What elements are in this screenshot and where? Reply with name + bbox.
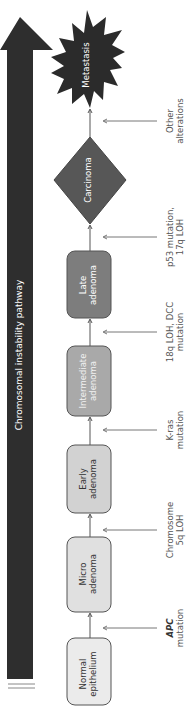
stage-label-metastasis: Metastasis	[82, 35, 94, 95]
alteration-label-line2: mutation	[176, 593, 186, 663]
stage-label-intermediate: Intermediate adenoma	[79, 346, 101, 416]
alteration-label-kras: K-ras mutation	[166, 395, 188, 465]
pathway-label: Chromosomal instability pathway	[14, 279, 26, 431]
stage-label-line2: adenoma	[89, 449, 99, 509]
alteration-label-18q: 18q LOH, DCC mutation	[166, 292, 188, 372]
stage-label-line1: Carcinoma	[84, 150, 94, 210]
stage-label-line2: adenoma	[89, 346, 99, 416]
alteration-label-line2: 17q LOH	[176, 197, 186, 277]
alteration-label-apc: APC mutation	[166, 593, 188, 663]
alteration-label-line2: alterations	[176, 86, 186, 156]
stage-label-early: Early adenoma	[79, 449, 101, 509]
pathway-arrow	[0, 17, 53, 688]
alteration-label-line2: 5q LOH	[176, 495, 186, 565]
alteration-label-line2: mutation	[176, 292, 186, 372]
alteration-label-5q: Chromosome 5q LOH	[166, 495, 188, 565]
stage-label-micro: Micro adenoma	[79, 544, 101, 604]
stage-label-line2: epithelium	[89, 644, 99, 704]
stage-label-line2: adenoma	[89, 255, 99, 315]
alteration-label-other: Other alterations	[166, 86, 188, 156]
stage-label-normal: Normal epithelium	[79, 644, 101, 704]
alteration-label-p53: p53 mutation, 17q LOH	[166, 197, 188, 277]
alteration-label-line2: mutation	[176, 395, 186, 465]
stage-label-carcinoma: Carcinoma	[84, 150, 96, 210]
stage-label-late: Late adenoma	[79, 255, 101, 315]
stage-label-line1: Metastasis	[82, 35, 92, 95]
stage-label-line2: adenoma	[89, 544, 99, 604]
